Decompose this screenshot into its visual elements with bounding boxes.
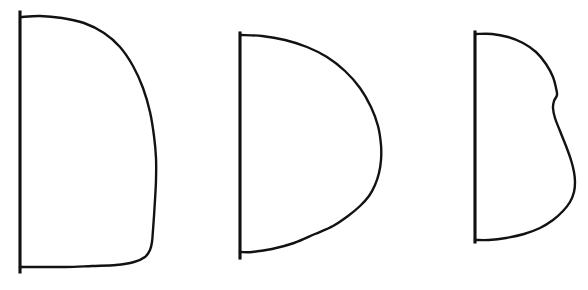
profile-figure-svg — [0, 0, 588, 290]
figure-container — [0, 0, 588, 290]
